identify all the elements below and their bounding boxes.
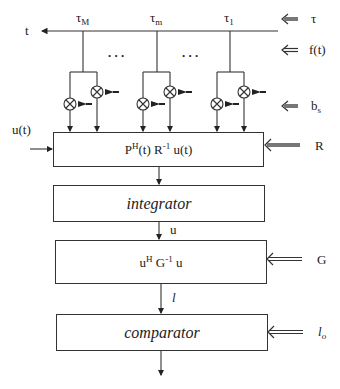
integrator-label: integrator <box>127 195 192 213</box>
tap-label-1: τ1 <box>224 11 234 27</box>
comparator-label: comparator <box>124 324 200 342</box>
integrator-output-label: u <box>170 223 177 236</box>
ft-input-label: f(t) <box>309 43 326 56</box>
quadratic-output-label: l <box>172 291 176 304</box>
G-input-label: G <box>317 253 326 266</box>
correlator-expression: PH(t) R-1 u(t) <box>125 141 192 158</box>
quadratic-expression: uH G-1 u <box>140 254 183 271</box>
ellipsis-left: . . . <box>108 46 124 59</box>
integrator-block: integrator <box>53 185 265 222</box>
l0-input-label: lo <box>318 325 326 341</box>
ut-input-label: u(t) <box>12 123 31 136</box>
tap-label-m: τm <box>150 11 162 27</box>
bs-input-label: bs <box>311 99 321 115</box>
ellipsis-right: . . . <box>182 46 198 59</box>
comparator-block: comparator <box>56 314 268 351</box>
R-input-label: R <box>315 139 324 152</box>
correlator-block: PH(t) R-1 u(t) <box>53 132 264 167</box>
multiplier-icons <box>64 86 250 110</box>
quadratic-form-block: uH G-1 u <box>55 240 267 284</box>
time-output-label: t <box>25 24 29 37</box>
tau-input-label: τ <box>311 12 316 25</box>
tap-label-M: τM <box>76 11 89 27</box>
